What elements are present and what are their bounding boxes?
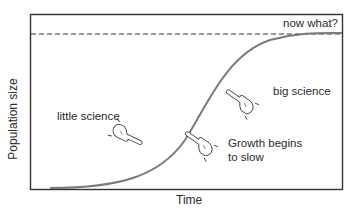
annotation-little-science: little science [57, 110, 120, 123]
diagram-canvas [0, 0, 350, 212]
pointing-hand-icon-big-science [220, 85, 259, 120]
y-axis-label: Population size [6, 74, 20, 164]
x-axis-label: Time [176, 194, 202, 207]
plot-frame [31, 15, 343, 190]
annotation-growth-slow-line2: to slow [228, 151, 264, 164]
annotation-big-science: big science [273, 85, 331, 98]
annotation-growth-slow-line1: Growth begins [228, 137, 302, 150]
ceiling-label: now what? [283, 17, 338, 30]
pointing-hand-icon-growth-slow [179, 127, 218, 162]
